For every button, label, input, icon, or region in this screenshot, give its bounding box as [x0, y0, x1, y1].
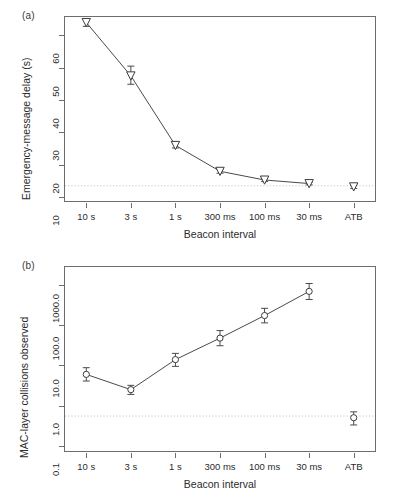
marker-triangle-down	[350, 183, 358, 191]
x-tick-mark	[131, 453, 132, 458]
marker-circle-open	[128, 387, 134, 393]
data-point-group	[350, 412, 357, 425]
data-point-group	[350, 183, 358, 191]
data-point-group	[83, 368, 90, 381]
x-tick-mark	[131, 203, 132, 208]
x-tick-mark	[354, 203, 355, 208]
data-point-group	[172, 353, 179, 366]
x-tick-mark	[220, 453, 221, 458]
panel-b: (b) MAC-layer collisions observed 0.11.0…	[0, 250, 393, 500]
y-tick-label: 1000.0	[50, 285, 61, 333]
data-point-group	[261, 308, 268, 323]
marker-circle-open	[83, 371, 89, 377]
data-point-group	[127, 385, 134, 394]
figure-root: (a) Emergency-message delay (s) 10203040…	[0, 0, 393, 500]
x-tick-mark	[86, 203, 87, 208]
data-point-group	[306, 283, 313, 299]
x-tick-mark	[354, 453, 355, 458]
data-point-group	[171, 141, 179, 149]
panel-a: (a) Emergency-message delay (s) 10203040…	[0, 0, 393, 250]
x-tick-mark	[86, 453, 87, 458]
series-connecting-line	[86, 22, 309, 183]
panel-b-x-axis-title: Beacon interval	[64, 478, 376, 490]
marker-triangle-down	[127, 72, 135, 80]
x-tick-mark	[220, 203, 221, 208]
x-tick-mark	[265, 203, 266, 208]
data-point-group	[217, 331, 224, 346]
marker-circle-open	[217, 335, 223, 341]
marker-circle-open	[306, 288, 312, 294]
x-tick-label: ATB	[324, 461, 384, 472]
x-tick-mark	[175, 453, 176, 458]
x-tick-mark	[175, 203, 176, 208]
x-tick-mark	[265, 453, 266, 458]
series-connecting-line	[86, 291, 309, 389]
marker-circle-open	[351, 415, 357, 421]
marker-circle-open	[261, 312, 267, 318]
x-tick-label: ATB	[324, 211, 384, 222]
y-tick-label: 60	[50, 35, 61, 83]
marker-circle-open	[172, 357, 178, 363]
data-point-group	[127, 66, 135, 84]
panel-a-x-axis-title: Beacon interval	[64, 228, 376, 240]
x-tick-mark	[309, 203, 310, 208]
x-tick-mark	[309, 453, 310, 458]
